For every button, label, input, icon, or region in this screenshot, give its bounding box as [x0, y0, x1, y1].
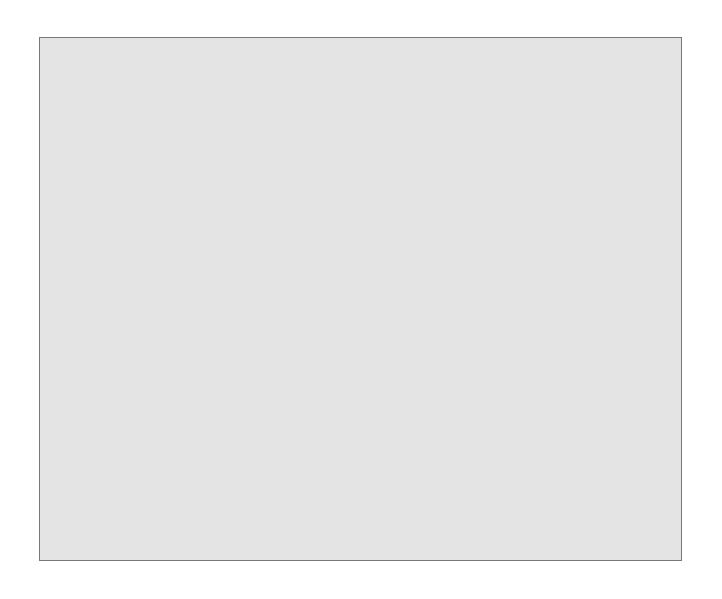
plot-area	[0, 0, 722, 599]
